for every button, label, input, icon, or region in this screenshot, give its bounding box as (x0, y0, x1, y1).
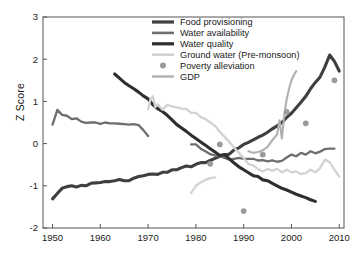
legend-label: GDP (180, 72, 200, 82)
scatter-point-poverty-alleviation (217, 142, 223, 148)
legend-label: Ground water (Pre-monsoon) (180, 50, 300, 60)
legend-label: Water quality (180, 39, 234, 49)
x-tick-label: 1950 (42, 232, 63, 243)
legend-marker-poverty-alleviation (160, 63, 166, 69)
series-line (191, 177, 215, 193)
y-tick-label: 0 (33, 138, 38, 149)
chart-figure: Z Score -2-10123195019601970198019902000… (0, 0, 360, 262)
legend-label: Water availability (180, 28, 250, 38)
x-tick-label: 2000 (281, 232, 302, 243)
x-tick-label: 1980 (185, 232, 206, 243)
scatter-point-poverty-alleviation (284, 109, 290, 115)
legend-label: Food provisioning (180, 17, 253, 27)
y-tick-label: -1 (30, 180, 38, 191)
scatter-point-poverty-alleviation (332, 77, 338, 83)
chart-canvas: -2-101231950196019701980199020002010 Foo… (0, 0, 360, 262)
scatter-point-poverty-alleviation (207, 161, 213, 167)
series-line (148, 96, 339, 176)
y-tick-label: -2 (30, 222, 38, 233)
x-tick-label: 1990 (233, 232, 254, 243)
y-tick-label: 3 (33, 11, 38, 22)
chart-legend: Food provisioningWater availabilityWater… (152, 17, 300, 82)
scatter-point-poverty-alleviation (260, 152, 266, 158)
y-tick-label: 2 (33, 54, 38, 65)
x-tick-label: 1960 (90, 232, 111, 243)
series-line (115, 74, 316, 201)
scatter-point-poverty-alleviation (303, 120, 309, 126)
y-tick-label: 1 (33, 96, 38, 107)
series-line (53, 110, 149, 136)
scatter-point-poverty-alleviation (241, 208, 247, 214)
x-tick-label: 1970 (138, 232, 159, 243)
x-tick-label: 2010 (329, 232, 350, 243)
legend-label: Poverty alleviation (180, 61, 255, 71)
